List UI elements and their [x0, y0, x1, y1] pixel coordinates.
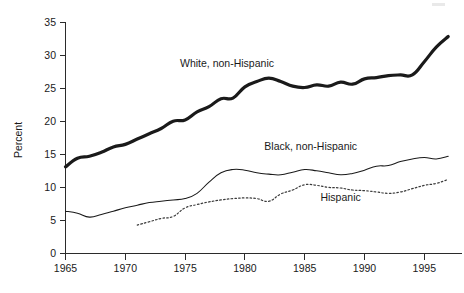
chart-figure: 05101520253035 1965197019751980198519901…: [0, 0, 464, 293]
y-axis-ticks: [60, 22, 66, 254]
series-label-white-non-hispanic: White, non-Hispanic: [180, 57, 274, 69]
scan-artifact: [432, 3, 445, 6]
x-tick-label: 1975: [173, 262, 197, 274]
x-tick-label: 1965: [54, 262, 78, 274]
x-tick-label: 1970: [114, 262, 138, 274]
line-chart: 05101520253035 1965197019751980198519901…: [0, 0, 464, 293]
x-tick-label: 1980: [233, 262, 257, 274]
series-line-black-non-hispanic: [66, 156, 449, 217]
series-label-black-non-hispanic: Black, non-Hispanic: [264, 140, 357, 152]
y-axis-tick-labels: 05101520253035: [44, 16, 56, 259]
y-tick-label: 20: [44, 115, 56, 127]
series-line-hispanic: [137, 179, 448, 225]
x-tick-label: 1990: [353, 262, 377, 274]
x-tick-label: 1995: [413, 262, 437, 274]
y-tick-label: 15: [44, 148, 56, 160]
y-tick-label: 30: [44, 49, 56, 61]
y-axis-title: Percent: [12, 122, 24, 158]
y-tick-label: 5: [50, 214, 56, 226]
y-tick-label: 0: [50, 247, 56, 259]
y-tick-label: 25: [44, 82, 56, 94]
x-axis-ticks: [66, 254, 425, 260]
x-axis-tick-labels: 1965197019751980198519901995: [54, 262, 436, 274]
y-tick-label: 35: [44, 16, 56, 28]
y-tick-label: 10: [44, 181, 56, 193]
series-label-hispanic: Hispanic: [320, 191, 360, 203]
x-tick-label: 1985: [293, 262, 317, 274]
